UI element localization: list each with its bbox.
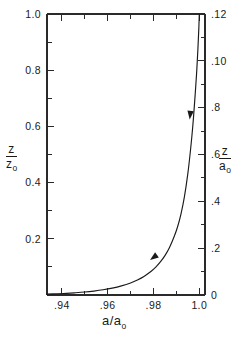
left-axis-title-numerator: z [6, 143, 17, 157]
left-axis-ticklabels: 0.20.40.60.81.0 [25, 8, 41, 245]
ticklabel-left: 1.0 [25, 8, 41, 20]
figure-panel: 0.20.40.60.81.0 0.2.4.6.8.10.12 .94.96.9… [0, 0, 250, 341]
bottom-axis-ticks [62, 288, 199, 295]
ticklabel-left: 0.8 [25, 64, 41, 76]
x-axis-title: a/ao [102, 314, 126, 330]
ticklabel-right: 0 [211, 289, 217, 301]
right-axis-title-fraction: z ao [219, 145, 231, 175]
left-axis-title-denominator: zo [6, 157, 17, 173]
ticklabel-right: .4 [211, 195, 221, 207]
ticklabel-left: 0.6 [25, 120, 41, 132]
right-axis-title-subscript: o [226, 165, 231, 175]
ticklabel-right: .12 [211, 8, 227, 20]
ticklabel-bottom: 1.0 [191, 299, 207, 311]
bottom-axis-ticklabels: .94.96.981.0 [54, 299, 207, 311]
ticklabel-bottom: .94 [54, 299, 70, 311]
right-axis-ticks [198, 14, 205, 295]
left-axis-title: z zo [6, 143, 17, 173]
left-axis-ticks [47, 14, 54, 267]
x-axis-title-subscript: o [122, 321, 127, 331]
direction-arrow-upper [186, 111, 193, 120]
top-axis-ticks [62, 14, 199, 21]
left-axis-title-subscript: o [13, 163, 18, 173]
plot-frame [47, 14, 205, 295]
ticklabel-right: .10 [211, 55, 227, 67]
ticklabel-right: .8 [211, 101, 221, 113]
direction-arrow-lower [148, 252, 159, 262]
ticklabel-bottom: .98 [146, 299, 162, 311]
data-curve [47, 14, 199, 294]
right-axis-title-numerator: z [219, 145, 231, 159]
left-axis-title-fraction: z zo [6, 143, 17, 173]
x-axis-title-numerator: a [102, 313, 110, 328]
ticklabel-left: 0.2 [25, 233, 41, 245]
ticklabel-left: 0.4 [25, 176, 41, 188]
direction-arrows [148, 111, 194, 263]
ticklabel-bottom: .96 [100, 299, 116, 311]
x-axis-title-denominator: ao [114, 313, 126, 328]
chart-canvas: 0.20.40.60.81.0 0.2.4.6.8.10.12 .94.96.9… [0, 0, 250, 341]
right-axis-title: z ao [219, 145, 231, 175]
ticklabel-right: .2 [211, 242, 221, 254]
right-axis-title-denominator: ao [219, 159, 231, 175]
